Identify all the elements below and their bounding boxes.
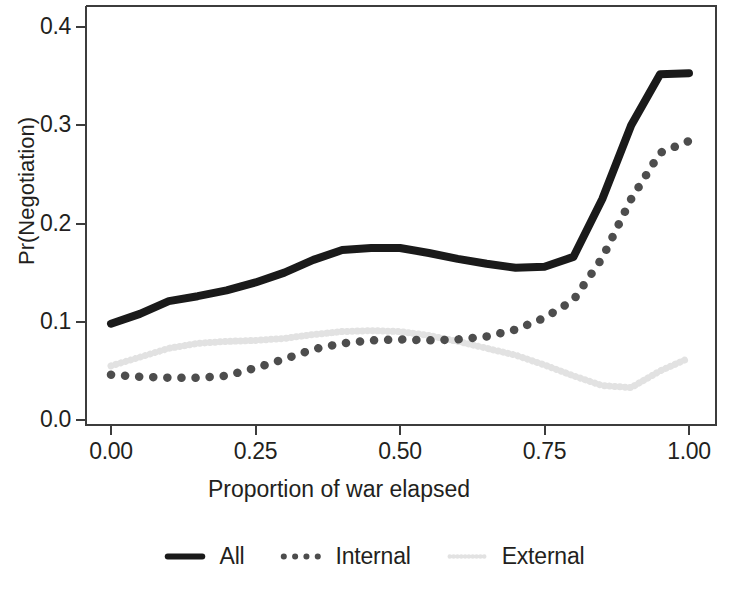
x-axis-label: Proportion of war elapsed	[0, 478, 678, 501]
x-tick-mark	[110, 426, 112, 435]
plot-canvas	[85, 5, 717, 426]
x-tick-label: 0.75	[490, 440, 600, 463]
y-tick-mark	[76, 26, 85, 28]
y-tick-mark	[76, 321, 85, 323]
x-tick-label: 0.50	[345, 440, 455, 463]
legend-item-internal: Internal	[275, 545, 411, 568]
series-line-all	[111, 73, 689, 324]
x-tick-label: 0.00	[56, 440, 166, 463]
x-tick-mark	[399, 426, 401, 435]
x-tick-label: 0.25	[201, 440, 311, 463]
y-tick-label: 0.4	[10, 15, 71, 38]
dotted-line-key	[275, 552, 327, 561]
y-tick-mark	[76, 124, 85, 126]
series-layer	[111, 73, 689, 387]
y-tick-mark	[76, 419, 85, 421]
x-tick-mark	[544, 426, 546, 435]
legend-item-all: All	[159, 545, 245, 568]
x-tick-mark	[255, 426, 257, 435]
legend-label: External	[502, 545, 585, 568]
y-tick-mark	[76, 223, 85, 225]
legend-label: Internal	[336, 545, 411, 568]
negotiation-probability-chart: 0.00.10.20.30.4 0.000.250.500.751.00 Pr(…	[0, 0, 743, 598]
solid-line-key	[159, 552, 211, 561]
y-tick-label: 0.1	[10, 310, 71, 333]
plot-frame	[86, 6, 716, 425]
light-dotted-line-key	[441, 552, 493, 561]
legend-label: All	[220, 545, 245, 568]
legend-item-external: External	[441, 545, 585, 568]
chart-legend: AllInternalExternal	[0, 545, 743, 568]
y-axis-label: Pr(Negotiation)	[16, 71, 38, 311]
y-tick-label: 0.0	[10, 408, 71, 431]
x-tick-label: 1.00	[634, 440, 743, 463]
x-tick-mark	[688, 426, 690, 435]
plot-area	[85, 5, 717, 426]
